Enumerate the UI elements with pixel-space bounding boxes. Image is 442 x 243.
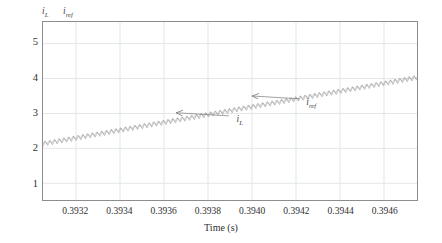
- chart-figure: iL iref 12345 iL iref 0.39320.39340.3936…: [0, 0, 442, 243]
- header-label-iref: iref: [63, 6, 73, 18]
- header-label-il: iL: [42, 6, 48, 18]
- y-tick-label-1: 2: [4, 143, 38, 154]
- plot-area: [42, 21, 418, 201]
- annotation-label-iref-text: iref: [306, 97, 316, 107]
- x-tick-label-2: 0.3936: [151, 207, 177, 217]
- annotation-label-iref: iref: [306, 97, 316, 109]
- annotation-arrow-i_L: [176, 113, 229, 116]
- annotation-label-il-text: iL: [237, 114, 243, 124]
- annotation-label-il: iL: [237, 114, 243, 126]
- x-axis-title: Time (s): [0, 222, 442, 233]
- annotation-arrow-i_ref: [252, 96, 299, 99]
- y-tick-label-3: 4: [4, 73, 38, 84]
- y-tick-label-0: 1: [4, 179, 38, 190]
- y-axis-tick-labels: 12345: [0, 0, 38, 243]
- x-tick-label-6: 0.3944: [328, 207, 354, 217]
- x-tick-label-1: 0.3934: [106, 207, 132, 217]
- x-tick-label-5: 0.3942: [283, 207, 309, 217]
- x-tick-label-3: 0.3938: [195, 207, 221, 217]
- annotation-arrows-layer: [43, 22, 417, 200]
- x-axis-title-text: Time (s): [204, 222, 238, 233]
- x-tick-label-4: 0.3940: [239, 207, 265, 217]
- y-tick-label-4: 5: [4, 37, 38, 48]
- x-tick-label-0: 0.3932: [62, 207, 88, 217]
- header-label-il-text: iL: [42, 6, 48, 16]
- x-tick-label-7: 0.3946: [372, 207, 398, 217]
- y-tick-label-2: 3: [4, 108, 38, 119]
- header-label-iref-text: iref: [63, 6, 73, 16]
